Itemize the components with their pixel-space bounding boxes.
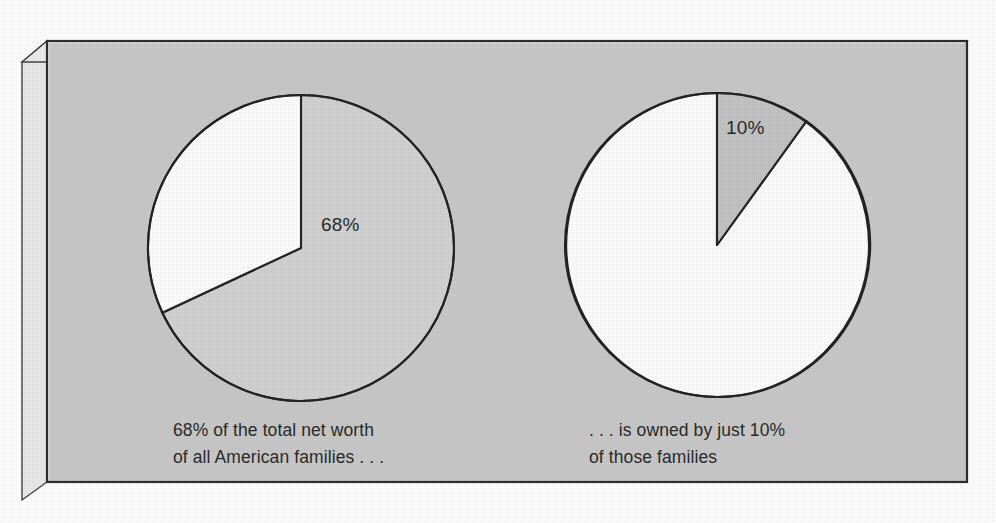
- caption-right-line-2: of those families: [589, 444, 785, 471]
- caption-left: 68% of the total net worth of all Americ…: [173, 417, 384, 471]
- caption-right: . . . is owned by just 10% of those fami…: [589, 417, 785, 471]
- pie-chart-net-worth-svg: [145, 92, 457, 404]
- pie-chart-families: 10%: [562, 90, 872, 400]
- panel-content: 68% 10% 68% of the total net worth of al…: [47, 41, 967, 482]
- pie-chart-net-worth: 68%: [145, 92, 457, 404]
- pie-slice-label-10: 10%: [726, 117, 765, 139]
- slab-left-face: [22, 41, 47, 500]
- caption-left-line-1: 68% of the total net worth: [173, 417, 384, 444]
- pie-chart-families-svg: [562, 90, 872, 400]
- caption-left-line-2: of all American families . . .: [173, 444, 384, 471]
- pie-slice-label-68: 68%: [321, 214, 360, 236]
- figure-container: 68% 10% 68% of the total net worth of al…: [0, 0, 996, 523]
- caption-right-line-1: . . . is owned by just 10%: [589, 417, 785, 444]
